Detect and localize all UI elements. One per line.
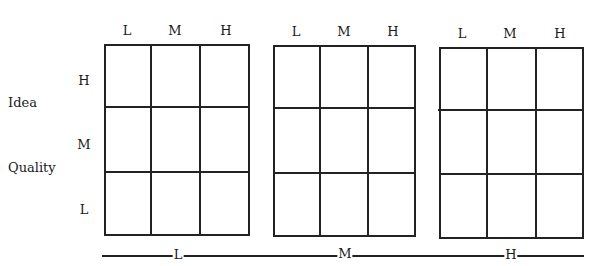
grid-2-col-divider-2 bbox=[367, 47, 369, 235]
row-label-low: L bbox=[80, 203, 89, 217]
grid-2-matrix bbox=[273, 45, 416, 237]
grid-1-col-label-low: L bbox=[123, 24, 132, 38]
grid-1-col-divider-1 bbox=[150, 46, 152, 234]
grid-1-matrix bbox=[104, 44, 250, 236]
grid-3-col-label-low: L bbox=[458, 27, 467, 41]
grid-2-col-label-medium: M bbox=[337, 25, 350, 39]
grid-3-col-divider-2 bbox=[535, 49, 537, 237]
row-label-medium: M bbox=[77, 138, 90, 152]
y-axis-title-idea: Idea bbox=[8, 96, 37, 110]
bottom-axis-label-medium: M bbox=[337, 247, 352, 261]
grid-3-col-divider-1 bbox=[486, 49, 488, 237]
grid-3-col-label-medium: M bbox=[503, 27, 516, 41]
grid-3-col-label-high: H bbox=[554, 27, 565, 41]
grid-1-row-divider-1 bbox=[106, 106, 248, 108]
y-axis-title-quality: Quality bbox=[8, 161, 56, 175]
grid-3-matrix bbox=[439, 47, 584, 239]
grid-3-row-divider-2 bbox=[441, 173, 582, 175]
grid-1-col-label-medium: M bbox=[168, 24, 181, 38]
grid-2-col-divider-1 bbox=[319, 47, 321, 235]
row-label-high: H bbox=[78, 74, 89, 88]
grid-1-row-divider-2 bbox=[106, 171, 248, 173]
grid-2-row-divider-2 bbox=[275, 172, 414, 174]
grid-2-col-label-low: L bbox=[292, 25, 301, 39]
grid-3-row-divider-1 bbox=[438, 109, 582, 111]
bottom-axis-label-high: H bbox=[504, 248, 517, 262]
bottom-axis-label-low: L bbox=[173, 248, 184, 262]
grid-1-col-label-high: H bbox=[220, 24, 231, 38]
grid-2-col-label-high: H bbox=[387, 25, 398, 39]
grid-1-col-divider-2 bbox=[199, 46, 201, 234]
grid-2-row-divider-1 bbox=[275, 107, 414, 109]
